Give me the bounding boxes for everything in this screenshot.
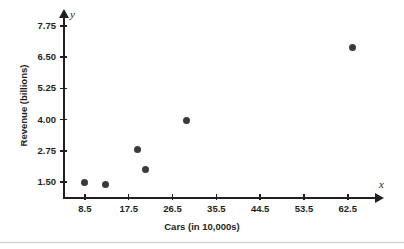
- y-axis-tick: [60, 119, 67, 121]
- x-axis-tick: [259, 194, 261, 200]
- y-axis-variable-label: y: [70, 8, 75, 20]
- x-axis-tick: [84, 194, 86, 200]
- y-axis-tick: [60, 150, 67, 152]
- y-axis-tick: [60, 25, 67, 27]
- x-axis-tick-label: 53.5: [284, 203, 324, 214]
- x-axis-tick-label: 26.5: [153, 203, 193, 214]
- y-axis-line: [63, 16, 65, 199]
- scatter-plot-figure: y x 8.517.526.535.544.553.562.5 1.502.75…: [0, 0, 404, 249]
- bottom-divider: [0, 242, 404, 243]
- y-axis-tick: [60, 56, 67, 58]
- x-axis-tick-label: 44.5: [240, 203, 280, 214]
- x-axis-tick-label: 62.5: [328, 203, 368, 214]
- y-axis-arrowhead-icon: [59, 9, 69, 18]
- y-axis-tick: [60, 181, 67, 183]
- data-point: [349, 44, 356, 51]
- x-axis-tick: [128, 194, 130, 200]
- x-axis-tick: [347, 194, 349, 200]
- x-axis-tick: [172, 194, 174, 200]
- y-axis-tick-label: 7.75: [20, 20, 56, 31]
- data-point: [81, 179, 88, 186]
- x-axis-tick-label: 17.5: [109, 203, 149, 214]
- data-point: [142, 166, 149, 173]
- data-point: [134, 146, 141, 153]
- x-axis-tick-label: 8.5: [65, 203, 105, 214]
- x-axis-tick: [216, 194, 218, 200]
- y-axis-title: Revenue (billions): [18, 31, 29, 181]
- x-axis-arrowhead-icon: [375, 193, 384, 203]
- x-axis-title: Cars (in 10,000s): [0, 221, 404, 232]
- plot-area: y x 8.517.526.535.544.553.562.5 1.502.75…: [0, 0, 404, 249]
- x-axis-tick-label: 35.5: [196, 203, 236, 214]
- x-axis-line: [63, 197, 377, 199]
- data-point: [102, 181, 109, 188]
- y-axis-tick: [60, 88, 67, 90]
- data-point: [183, 117, 190, 124]
- x-axis-tick: [303, 194, 305, 200]
- x-axis-variable-label: x: [379, 178, 384, 190]
